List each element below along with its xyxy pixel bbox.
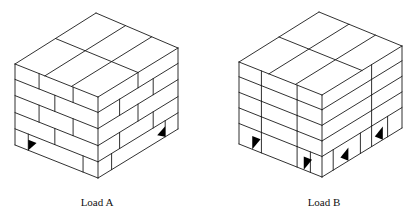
fork-opening-icon xyxy=(252,136,260,149)
fork-opening-icon xyxy=(340,148,348,161)
pallet-loads-diagram xyxy=(0,0,414,215)
load-b-label: Load B xyxy=(308,196,341,208)
row-line xyxy=(239,108,322,141)
edge xyxy=(98,129,178,178)
row-line xyxy=(15,96,98,129)
row-line xyxy=(15,129,98,162)
load-a-label: Load A xyxy=(81,196,114,208)
edge xyxy=(322,128,402,177)
fork-opening-icon xyxy=(157,126,165,137)
row-line xyxy=(322,92,402,141)
load-a-drawing xyxy=(15,13,178,178)
row-line xyxy=(322,108,402,157)
fork-opening-icon xyxy=(375,126,383,139)
load-b-drawing xyxy=(239,12,402,177)
row-line xyxy=(239,92,322,125)
fork-opening-icon xyxy=(28,140,36,151)
row-line xyxy=(15,113,98,146)
edge xyxy=(15,145,98,178)
row-line xyxy=(239,124,322,157)
